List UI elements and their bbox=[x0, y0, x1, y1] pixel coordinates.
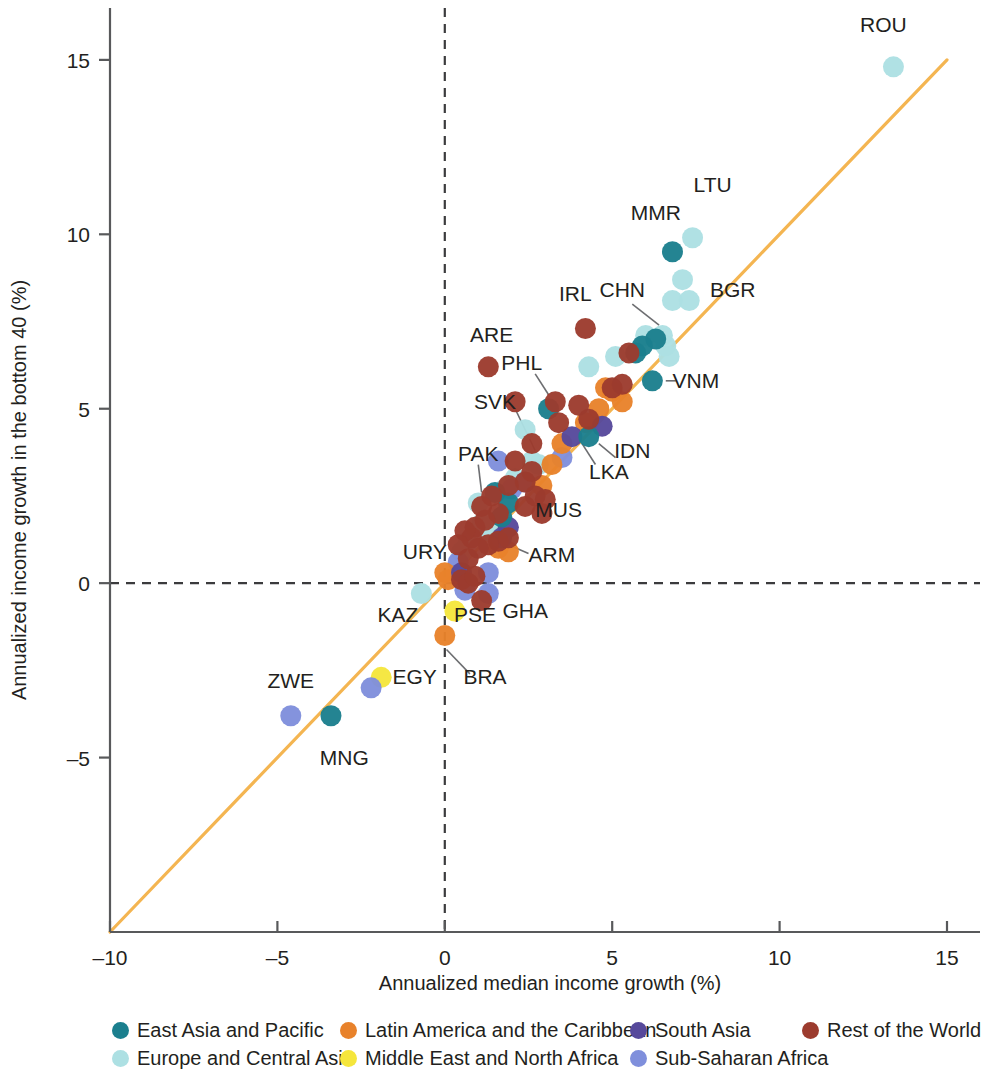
y-axis-tick-label: 0 bbox=[78, 572, 90, 595]
legend-item-middle-east-and-north-africa[interactable]: Middle East and North Africa bbox=[340, 1048, 630, 1068]
x-axis-tick-label: 10 bbox=[768, 946, 791, 969]
country-label-ury: URY bbox=[403, 540, 447, 563]
legend-label: Latin America and the Caribbean bbox=[365, 1020, 656, 1040]
country-label-mng: MNG bbox=[320, 746, 369, 769]
data-point bbox=[679, 290, 700, 311]
y-axis-tick-label: 5 bbox=[78, 398, 90, 421]
data-point bbox=[361, 677, 382, 698]
data-point bbox=[659, 346, 680, 367]
legend-swatch-icon bbox=[802, 1022, 819, 1039]
legend-label: Sub-Saharan Africa bbox=[655, 1048, 828, 1068]
country-label-kaz: KAZ bbox=[378, 603, 419, 626]
scatter-plot-figure: –10–5051015–5051015 ROULTUMMRBGRCHNIRLAR… bbox=[0, 0, 987, 1074]
legend-swatch-icon bbox=[112, 1050, 129, 1067]
country-label-ltu: LTU bbox=[694, 173, 732, 196]
x-axis-title: Annualized median income growth (%) bbox=[379, 972, 721, 994]
y-axis-tick-label: –5 bbox=[67, 747, 90, 770]
x-axis-tick-label: –5 bbox=[266, 946, 289, 969]
data-point bbox=[448, 534, 469, 555]
annotation-leader-line bbox=[632, 304, 659, 325]
legend-swatch-icon bbox=[630, 1022, 647, 1039]
country-code-labels: ROULTUMMRBGRCHNIRLAREPHLVNMSVKIDNLKAPAKM… bbox=[267, 13, 906, 769]
legend-label: Europe and Central Asia bbox=[137, 1048, 354, 1068]
legend-swatch-icon bbox=[630, 1050, 647, 1067]
chart-legend: East Asia and PacificLatin America and t… bbox=[0, 1012, 987, 1074]
x-axis-tick-label: 0 bbox=[439, 946, 451, 969]
data-point-bra bbox=[434, 625, 455, 646]
data-point-kaz bbox=[411, 583, 432, 604]
annotation-leader-line bbox=[478, 465, 481, 493]
data-point-zwe bbox=[280, 705, 301, 726]
legend-item-rest-of-the-world[interactable]: Rest of the World bbox=[802, 1020, 981, 1040]
country-label-rou: ROU bbox=[860, 13, 907, 36]
legend-label: Middle East and North Africa bbox=[365, 1048, 618, 1068]
country-label-bgr: BGR bbox=[710, 278, 756, 301]
data-point bbox=[498, 527, 519, 548]
data-point bbox=[541, 454, 562, 475]
country-label-zwe: ZWE bbox=[267, 669, 314, 692]
country-label-bra: BRA bbox=[463, 665, 506, 688]
data-point bbox=[618, 342, 639, 363]
x-axis-tick-label: 5 bbox=[606, 946, 618, 969]
data-point bbox=[578, 409, 599, 430]
legend-item-sub-saharan-africa[interactable]: Sub-Saharan Africa bbox=[630, 1048, 802, 1068]
country-label-mmr: MMR bbox=[631, 201, 681, 224]
x-axis-tick-label: 15 bbox=[935, 946, 958, 969]
country-label-chn: CHN bbox=[599, 278, 645, 301]
country-label-gha: GHA bbox=[502, 599, 548, 622]
country-label-arm: ARM bbox=[529, 543, 576, 566]
legend-label: East Asia and Pacific bbox=[137, 1020, 324, 1040]
country-label-vnm: VNM bbox=[673, 369, 720, 392]
data-point bbox=[521, 461, 542, 482]
data-point-ltu bbox=[682, 227, 703, 248]
legend-item-latin-america-and-the-caribbean[interactable]: Latin America and the Caribbean bbox=[340, 1020, 630, 1040]
data-point-bgr bbox=[672, 269, 693, 290]
data-point bbox=[612, 374, 633, 395]
country-label-lka: LKA bbox=[589, 460, 629, 483]
legend-item-europe-and-central-asia[interactable]: Europe and Central Asia bbox=[112, 1048, 340, 1068]
y-axis-title: Annualized income growth in the bottom 4… bbox=[8, 280, 30, 700]
data-point-mng bbox=[320, 705, 341, 726]
country-label-irl: IRL bbox=[559, 282, 592, 305]
y-axis-tick-label: 10 bbox=[67, 223, 90, 246]
data-point-are bbox=[478, 356, 499, 377]
x-axis-tick-label: –10 bbox=[92, 946, 127, 969]
legend-label: South Asia bbox=[655, 1020, 751, 1040]
country-label-phl: PHL bbox=[501, 351, 542, 374]
data-point bbox=[521, 433, 542, 454]
country-label-egy: EGY bbox=[392, 665, 436, 688]
data-point-mmr bbox=[662, 241, 683, 262]
country-label-svk: SVK bbox=[474, 390, 516, 413]
country-label-pak: PAK bbox=[458, 442, 498, 465]
data-point bbox=[464, 566, 485, 587]
data-point-rou bbox=[883, 56, 904, 77]
data-point bbox=[578, 356, 599, 377]
scatter-plot-canvas: –10–5051015–5051015 ROULTUMMRBGRCHNIRLAR… bbox=[0, 0, 987, 1010]
data-point bbox=[545, 391, 566, 412]
legend-swatch-icon bbox=[112, 1022, 129, 1039]
country-label-are: ARE bbox=[470, 323, 513, 346]
legend-swatch-icon bbox=[340, 1022, 357, 1039]
annotation-leader-line bbox=[599, 444, 616, 458]
legend-swatch-icon bbox=[340, 1050, 357, 1067]
legend-item-south-asia[interactable]: South Asia bbox=[630, 1020, 802, 1040]
country-label-idn: IDN bbox=[614, 439, 650, 462]
y-axis-tick-label: 15 bbox=[67, 49, 90, 72]
legend-label: Rest of the World bbox=[827, 1020, 981, 1040]
data-point-vnm bbox=[642, 370, 663, 391]
legend-item-east-asia-and-pacific[interactable]: East Asia and Pacific bbox=[112, 1020, 340, 1040]
data-point-irl bbox=[575, 318, 596, 339]
country-label-pse: PSE bbox=[454, 603, 496, 626]
data-point bbox=[548, 412, 569, 433]
data-points-group bbox=[280, 56, 904, 726]
country-label-mus: MUS bbox=[535, 498, 582, 521]
annotation-leader-line bbox=[535, 374, 548, 395]
